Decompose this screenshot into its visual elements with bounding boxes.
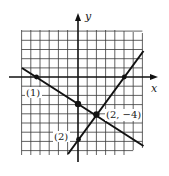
line-2-x-intercept-point: [122, 75, 127, 80]
x-axis-label: x: [151, 82, 158, 95]
line-1-label: (1): [26, 87, 40, 98]
intersection-label: (2, −4): [106, 109, 141, 120]
intersection-point: [93, 111, 99, 117]
line-2-label: (2): [54, 131, 68, 142]
line-1-y-intercept-point: [75, 101, 81, 107]
y-axis-arrow-icon: [75, 13, 81, 21]
line-1-x-intercept-point: [34, 75, 39, 80]
coordinate-graph: y x (1) (2) (2, −4): [0, 0, 169, 176]
line-2-y-intercept-point: [76, 137, 81, 142]
x-axis-arrow-icon: [150, 74, 158, 80]
y-axis-label: y: [84, 10, 92, 23]
